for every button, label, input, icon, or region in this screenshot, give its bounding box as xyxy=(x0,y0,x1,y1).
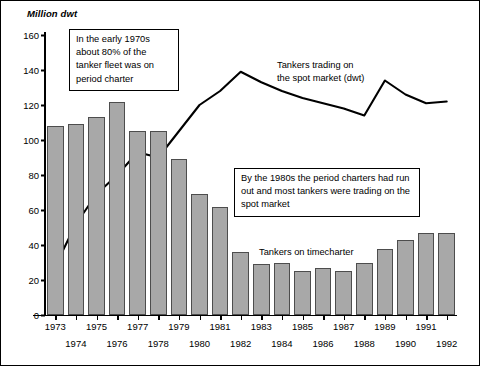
x-axis-tick-mark xyxy=(76,315,78,320)
x-axis-label-1978: 1978 xyxy=(148,338,169,349)
bar-1991 xyxy=(418,233,434,315)
y-axis-tick-mark xyxy=(41,70,45,72)
x-axis-tick-mark xyxy=(406,315,408,320)
y-axis-tick-mark xyxy=(41,140,45,142)
x-axis-tick-mark xyxy=(200,315,202,320)
chart-container: Million dwt 020406080100120140160 In the… xyxy=(0,0,480,366)
x-axis-tick-mark xyxy=(179,315,181,320)
x-axis-tick-mark xyxy=(303,315,305,320)
bar-1990 xyxy=(397,240,413,315)
x-axis-label-1977: 1977 xyxy=(127,321,148,332)
x-axis-tick-mark xyxy=(97,315,99,320)
bar-1975 xyxy=(88,117,104,315)
bar-1989 xyxy=(377,249,393,316)
bar-1984 xyxy=(274,263,290,316)
x-axis-tick-mark xyxy=(138,315,140,320)
y-axis-title: Million dwt xyxy=(27,8,77,19)
y-axis-tick-mark xyxy=(41,315,45,317)
y-axis-tick-mark xyxy=(41,245,45,247)
bar-1977 xyxy=(129,131,145,315)
callout-spot-market: By the 1980s the period charters had run… xyxy=(234,168,420,217)
x-axis-label-1991: 1991 xyxy=(416,321,437,332)
bar-1981 xyxy=(212,207,228,316)
x-axis-tick-mark xyxy=(344,315,346,320)
y-axis-tick-mark xyxy=(41,175,45,177)
series-label-timecharter: Tankers on timecharter xyxy=(259,246,354,259)
callout-period-charter: In the early 1970s about 80% of the tank… xyxy=(69,29,179,91)
bar-1982 xyxy=(232,252,248,315)
x-axis-tick-mark xyxy=(385,315,387,320)
y-axis-tick-mark xyxy=(41,210,45,212)
x-axis-label-1985: 1985 xyxy=(292,321,313,332)
x-axis-tick-mark xyxy=(55,315,57,320)
x-axis-label-1980: 1980 xyxy=(189,338,210,349)
bar-1986 xyxy=(315,268,331,315)
series-label-spot-market: Tankers trading on the spot market (dwt) xyxy=(277,59,364,85)
bar-1987 xyxy=(335,271,351,315)
bar-1985 xyxy=(294,271,310,315)
x-axis-label-1975: 1975 xyxy=(86,321,107,332)
x-axis-label-1979: 1979 xyxy=(168,321,189,332)
x-axis-label-1981: 1981 xyxy=(210,321,231,332)
bar-1988 xyxy=(356,263,372,316)
x-axis-tick-mark xyxy=(282,315,284,320)
x-axis-tick-mark xyxy=(364,315,366,320)
x-axis-tick-mark xyxy=(426,315,428,320)
x-axis-label-1982: 1982 xyxy=(230,338,251,349)
x-axis-label-1986: 1986 xyxy=(313,338,334,349)
x-axis-label-1974: 1974 xyxy=(65,338,86,349)
y-axis-tick-mark xyxy=(41,105,45,107)
x-axis-label-1984: 1984 xyxy=(271,338,292,349)
x-axis-label-1992: 1992 xyxy=(436,338,457,349)
x-axis-tick-mark xyxy=(117,315,119,320)
x-axis-tick-mark xyxy=(241,315,243,320)
bar-1973 xyxy=(47,126,63,315)
x-axis-label-1983: 1983 xyxy=(251,321,272,332)
x-axis-label-1973: 1973 xyxy=(45,321,66,332)
y-axis-tick-mark xyxy=(41,35,45,37)
x-axis-tick-mark xyxy=(158,315,160,320)
x-axis-label-1987: 1987 xyxy=(333,321,354,332)
x-axis-label-1976: 1976 xyxy=(107,338,128,349)
bar-1976 xyxy=(109,102,125,316)
x-axis-tick-mark xyxy=(323,315,325,320)
bar-1974 xyxy=(68,124,84,315)
x-axis-tick-mark xyxy=(261,315,263,320)
x-axis-tick-mark xyxy=(220,315,222,320)
y-axis-tick-mark xyxy=(41,280,45,282)
x-axis-label-1989: 1989 xyxy=(374,321,395,332)
bar-1978 xyxy=(150,131,166,315)
bar-1983 xyxy=(253,264,269,315)
bar-1979 xyxy=(171,159,187,315)
bar-1992 xyxy=(438,233,454,315)
x-axis-label-1988: 1988 xyxy=(354,338,375,349)
x-axis-label-1990: 1990 xyxy=(395,338,416,349)
x-axis-tick-mark xyxy=(447,315,449,320)
bar-1980 xyxy=(191,194,207,315)
